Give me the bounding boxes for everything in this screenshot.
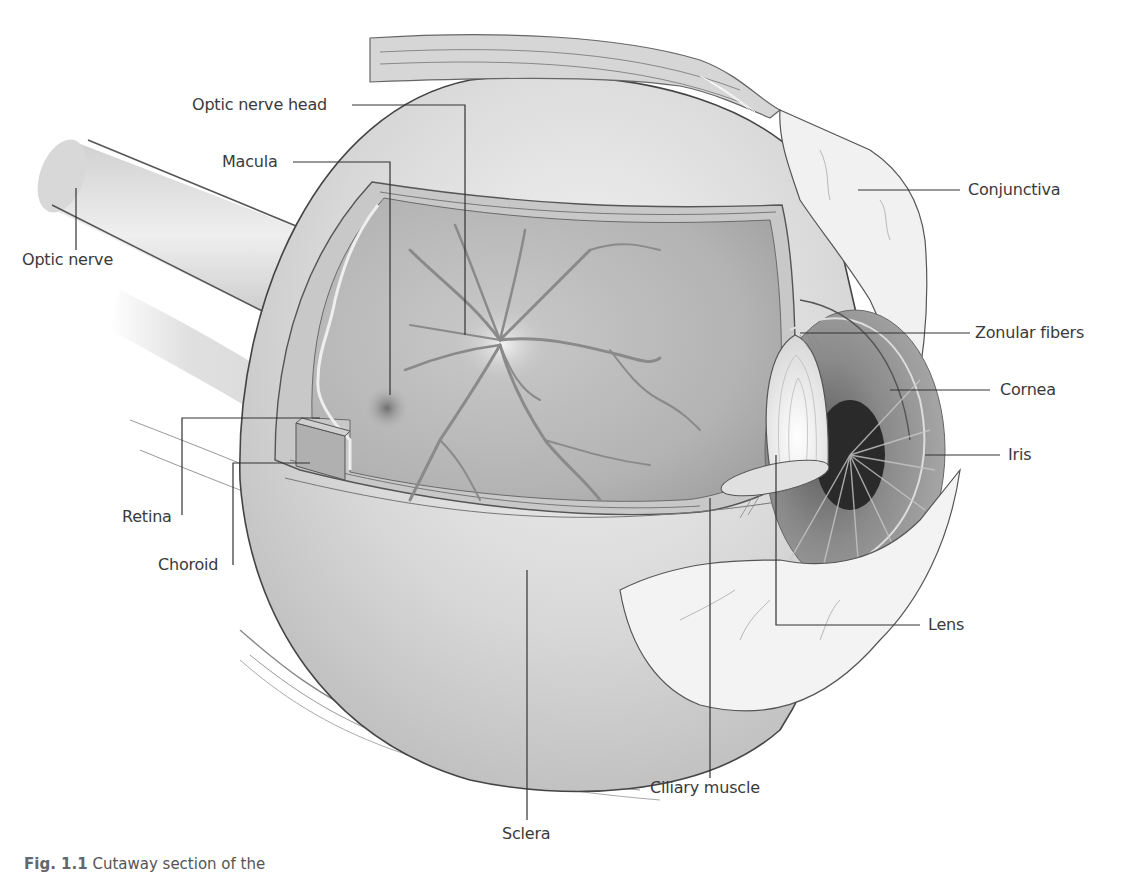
figure-caption: Fig. 1.1 Cutaway section of the — [24, 855, 265, 873]
optic-disc — [455, 305, 551, 385]
figure-caption-text: Cutaway section of the — [92, 855, 265, 873]
label-optic-nerve-head: Optic nerve head — [192, 95, 327, 115]
label-ciliary-muscle: Ciliary muscle — [650, 778, 760, 798]
label-zonular-fibers: Zonular fibers — [975, 323, 1084, 343]
label-lens: Lens — [928, 615, 964, 635]
label-sclera: Sclera — [502, 824, 550, 844]
label-choroid: Choroid — [158, 555, 218, 575]
label-macula: Macula — [222, 152, 278, 172]
label-cornea: Cornea — [1000, 380, 1056, 400]
label-conjunctiva: Conjunctiva — [968, 180, 1060, 200]
label-retina: Retina — [122, 507, 172, 527]
label-iris: Iris — [1008, 445, 1031, 465]
macula-spot — [365, 386, 409, 430]
label-optic-nerve: Optic nerve — [22, 250, 113, 270]
figure-number: Fig. 1.1 — [24, 855, 88, 873]
